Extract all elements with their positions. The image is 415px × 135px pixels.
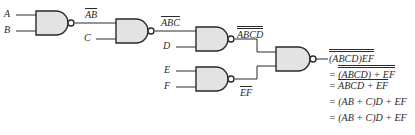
expr3-prefix: = (329, 80, 338, 91)
label-abcd-bar: ABCD (237, 26, 263, 40)
input-label-e: E (164, 65, 170, 75)
label-abc-bar: ABC (161, 18, 180, 28)
input-label-f: F (164, 81, 170, 91)
nand-gate-3 (196, 27, 234, 51)
input-label-c: C (84, 33, 91, 43)
output-expr-line1: (ABCD)EF (329, 49, 374, 64)
wire-abcd (235, 39, 276, 52)
expr5-body: (AB + C)D + EF (338, 112, 406, 123)
input-label-d: D (163, 41, 170, 51)
label-ab-bar: AB (85, 10, 97, 20)
output-expr-line4: = (AB + C)D + EF (329, 97, 407, 107)
expr4-prefix: = (329, 96, 338, 107)
input-label-a: A (4, 9, 10, 19)
nand-gate-1 (36, 11, 74, 35)
output-expr-line2: = (ABCD) + EF (329, 65, 395, 80)
output-expr-line3: = ABCD + EF (329, 81, 388, 91)
expr2-prefix: = (329, 69, 338, 80)
expr3-body: ABCD + EF (338, 80, 388, 91)
label-ef-bar: EF (240, 88, 252, 98)
input-label-b: B (4, 25, 10, 35)
expr5-prefix: = (329, 112, 338, 123)
nand-gate-5 (276, 47, 316, 71)
expr1-body: (ABCD)EF (329, 49, 374, 64)
expr2-body: (ABCD) + EF (338, 65, 395, 80)
output-expr-line5: = (AB + C)D + EF (329, 113, 407, 123)
expr4-body: (AB + C)D + EF (338, 96, 406, 107)
abcd-text: ABCD (237, 26, 263, 40)
wire-ef (235, 66, 276, 79)
nand-gate-4 (196, 67, 234, 91)
nand-gate-2 (116, 19, 154, 43)
